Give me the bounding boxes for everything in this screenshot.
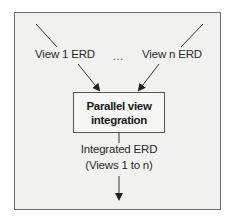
input-line-left	[36, 24, 57, 47]
output-label-line1: Integrated ERD	[81, 143, 157, 155]
arrow-right-to-process	[139, 64, 159, 90]
process-label-line1: Parallel view	[86, 99, 151, 113]
process-box-parallel-view-integration: Parallel view integration	[73, 92, 165, 133]
ellipsis: …	[112, 50, 123, 62]
input-line-right	[181, 24, 203, 47]
output-label-line2: (Views 1 to n)	[85, 159, 152, 171]
input-label-view-1: View 1 ERD	[35, 48, 95, 60]
arrow-left-to-process	[78, 64, 99, 90]
process-label-line2: integration	[91, 113, 147, 127]
input-label-view-n: View n ERD	[142, 48, 202, 60]
